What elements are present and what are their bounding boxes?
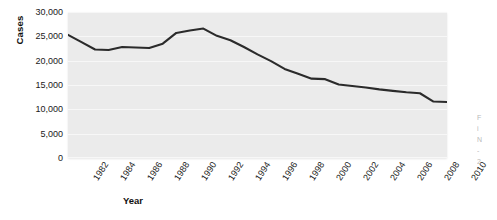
y-tick-label: 20,000	[35, 56, 63, 66]
x-tick-label: 1984	[118, 160, 137, 182]
x-tick-label: 1996	[280, 160, 299, 182]
x-tick-label: 1994	[253, 160, 272, 182]
x-tick-label: 1990	[199, 160, 218, 182]
caption-line: F	[477, 112, 497, 123]
x-axis-title-text: Year	[123, 195, 143, 206]
caption-line: N	[477, 134, 497, 145]
line-chart: Cases 0 5,000 10,000 15,000 20,000 25,00…	[0, 0, 497, 220]
x-tick-label: 1988	[172, 160, 191, 182]
x-axis-tick-labels: 1982 1984 1986 1988 1990 1992 1994 1996 …	[0, 158, 497, 200]
x-axis-title: Year	[0, 195, 497, 206]
x-tick-label: 1998	[307, 160, 326, 182]
x-tick-label: 1992	[226, 160, 245, 182]
caption-line: 2	[477, 156, 497, 167]
x-tick-label: 1986	[145, 160, 164, 182]
y-axis-tick-labels: 0 5,000 10,000 15,000 20,000 25,000 30,0…	[0, 0, 66, 170]
x-tick-label: 2000	[334, 160, 353, 182]
cut-off-caption: F i N - 2	[477, 112, 497, 167]
caption-line: i	[477, 123, 497, 134]
chart-figure: Cases 0 5,000 10,000 15,000 20,000 25,00…	[0, 0, 497, 220]
plot-area	[68, 12, 447, 158]
x-tick-label: 2002	[361, 160, 380, 182]
caption-line: -	[477, 145, 497, 156]
x-tick-label: 1982	[91, 160, 110, 182]
y-tick-label: 5,000	[40, 129, 63, 139]
x-tick-label: 2006	[415, 160, 434, 182]
y-tick-label: 15,000	[35, 80, 63, 90]
x-tick-label: 2004	[388, 160, 407, 182]
y-tick-label: 25,000	[35, 31, 63, 41]
data-series-cases	[68, 12, 447, 158]
x-tick-label: 2008	[442, 160, 461, 182]
y-tick-label: 10,000	[35, 104, 63, 114]
y-tick-label: 30,000	[35, 7, 63, 17]
